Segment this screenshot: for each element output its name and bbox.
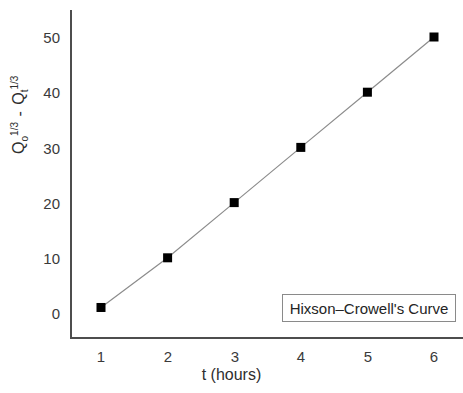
legend-box: Hixson–Crowell's Curve xyxy=(282,294,456,322)
series-line xyxy=(101,37,434,307)
data-point-marker xyxy=(230,198,239,207)
series-markers xyxy=(97,33,439,312)
legend-label: Hixson–Crowell's Curve xyxy=(290,300,449,317)
data-point-marker xyxy=(363,88,372,97)
data-point-marker xyxy=(97,303,106,312)
data-point-marker xyxy=(430,33,439,42)
data-point-marker xyxy=(163,253,172,262)
chart-figure: 0 10 20 30 40 50 1 2 3 4 5 6 t (hours) Q… xyxy=(0,0,463,393)
plot-area xyxy=(0,0,463,393)
data-point-marker xyxy=(296,143,305,152)
